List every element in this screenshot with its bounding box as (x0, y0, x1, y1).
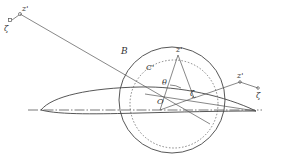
connector-top-left (12, 15, 19, 20)
circle-b (119, 47, 225, 153)
label-theta: θ (162, 78, 167, 87)
label-z-prime-circle: z' (175, 45, 182, 54)
label-origin: O (157, 97, 164, 106)
zeta-point-top-left (9, 19, 12, 22)
label-zeta-circle: ζ (190, 89, 195, 98)
label-circle-c-prime: C' (146, 63, 154, 72)
label-zeta-top-left: ζ (4, 24, 9, 33)
label-z-prime-right: z' (236, 71, 243, 80)
label-zeta-right: ζ (256, 91, 261, 100)
label-circle-b: B (120, 46, 128, 56)
label-z-prime-top-left: z' (21, 4, 28, 13)
theta-arc (170, 85, 181, 88)
line-z-prime-top-left (20, 14, 210, 124)
airfoil-mapping-diagram: z' ζ B C' θ O z' ζ z' ζ (0, 0, 283, 163)
line-z-prime-right-to-zeta (240, 82, 258, 88)
circle-c-prime (130, 60, 218, 148)
